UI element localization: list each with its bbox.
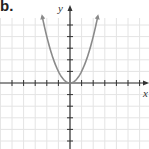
axes — [0, 5, 149, 149]
x-axis-label: x — [142, 87, 148, 99]
y-axis-label: y — [57, 2, 63, 14]
parabola-plot: y x — [0, 0, 149, 149]
